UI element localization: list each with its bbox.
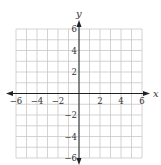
coordinate-plane: x y −6−4−2246 642−2−4−6 xyxy=(0,0,161,165)
y-tick-label: −2 xyxy=(64,110,77,120)
y-axis-bottom-arrow-icon xyxy=(77,158,82,165)
x-tick-label: −6 xyxy=(10,96,23,106)
x-tick-label: 6 xyxy=(139,96,144,106)
y-tick-label: −4 xyxy=(64,132,77,142)
axes xyxy=(6,20,150,165)
x-tick-label: −4 xyxy=(31,96,44,106)
x-tick-label: −2 xyxy=(52,96,65,106)
y-tick-label: 2 xyxy=(72,67,77,77)
x-tick-label: 2 xyxy=(97,96,102,106)
x-tick-label: 4 xyxy=(118,96,123,106)
y-tick-label: 6 xyxy=(72,24,77,34)
y-tick-label: 4 xyxy=(72,46,77,56)
y-tick-label: −6 xyxy=(64,153,77,163)
y-axis-top-arrow-icon xyxy=(77,20,82,27)
x-axis-label: x xyxy=(153,88,159,99)
y-axis-label: y xyxy=(75,8,82,19)
